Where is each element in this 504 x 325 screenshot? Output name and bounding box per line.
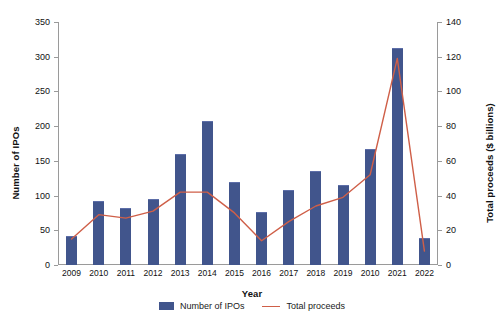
y-axis-right-tick <box>438 196 442 197</box>
y-axis-right-tick-label: 80 <box>446 121 456 131</box>
y-axis-right-tick <box>438 57 442 58</box>
x-axis-tick-label: 2012 <box>144 268 163 278</box>
y-axis-right-tick-label: 60 <box>446 156 456 166</box>
x-axis-tick-label: 2014 <box>198 268 217 278</box>
chart-container: Number of IPOs Total proceeds ($ billion… <box>0 0 504 325</box>
y-axis-right-tick <box>438 22 442 23</box>
x-axis-tick-label: 2010 <box>89 268 108 278</box>
x-axis-title: Year <box>0 288 504 299</box>
x-axis-tick-label: 2010 <box>361 268 380 278</box>
y-axis-left-tick-label: 0 <box>0 260 50 270</box>
y-axis-right-tick-label: 40 <box>446 191 456 201</box>
legend-item-total-proceeds: Total proceeds <box>262 301 345 311</box>
legend-line-swatch-icon <box>262 306 280 307</box>
y-axis-left-tick-label: 100 <box>0 191 50 201</box>
x-axis-tick-label: 2019 <box>334 268 353 278</box>
y-axis-right-title: Total proceeds ($ billions) <box>484 88 495 238</box>
x-axis-tick-label: 2011 <box>117 268 135 278</box>
line-series-total-proceeds <box>58 22 438 265</box>
y-axis-right-tick-label: 140 <box>446 17 461 27</box>
y-axis-right-tick-label: 100 <box>446 86 461 96</box>
x-axis-tick-label: 2013 <box>171 268 190 278</box>
y-axis-left-tick <box>54 265 58 266</box>
y-axis-left-tick-label: 250 <box>0 86 50 96</box>
x-axis-tick-label: 2021 <box>388 268 407 278</box>
plot-area <box>58 22 438 265</box>
x-axis-tick-label: 2017 <box>279 268 298 278</box>
y-axis-right-tick <box>438 161 442 162</box>
y-axis-left-tick-label: 350 <box>0 17 50 27</box>
x-axis-tick-label: 2018 <box>306 268 325 278</box>
y-axis-left-tick-label: 50 <box>0 225 50 235</box>
y-axis-right-tick <box>438 265 442 266</box>
y-axis-right-tick-label: 20 <box>446 225 456 235</box>
legend-bar-swatch-icon <box>159 302 174 310</box>
chart-legend: Number of IPOs Total proceeds <box>0 301 504 311</box>
y-axis-left-tick-label: 200 <box>0 121 50 131</box>
legend-item-number-of-ipos: Number of IPOs <box>159 301 245 311</box>
y-axis-left-tick-label: 150 <box>0 156 50 166</box>
y-axis-right-tick-label: 120 <box>446 52 461 62</box>
legend-label-total-proceeds: Total proceeds <box>286 301 345 311</box>
x-axis-tick-label: 2022 <box>415 268 434 278</box>
x-axis-tick-label: 2016 <box>252 268 271 278</box>
y-axis-right-tick <box>438 230 442 231</box>
y-axis-right-tick <box>438 91 442 92</box>
x-axis-tick-label: 2015 <box>225 268 244 278</box>
x-axis-tick-label: 2009 <box>62 268 81 278</box>
y-axis-left-tick-label: 300 <box>0 52 50 62</box>
legend-label-number-of-ipos: Number of IPOs <box>180 301 245 311</box>
y-axis-right-tick <box>438 126 442 127</box>
y-axis-right-tick-label: 0 <box>446 260 451 270</box>
